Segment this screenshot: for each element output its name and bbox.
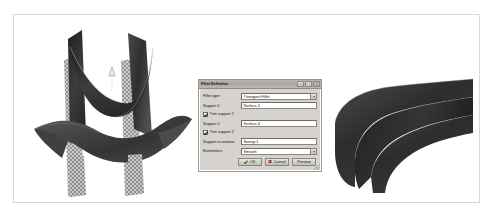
close-icon[interactable]: × <box>313 81 320 87</box>
cross-icon <box>268 160 272 164</box>
fillet-type-select[interactable]: Tritangent Fillet <box>241 93 317 100</box>
input-surfaces-preview <box>24 17 199 202</box>
dialog-titlebar[interactable]: Fillet Definition – □ × <box>199 80 321 89</box>
dialog-body: Fillet type: Tritangent Fillet Support 1… <box>199 89 321 168</box>
ok-button-label: OK <box>250 160 256 164</box>
maximize-icon[interactable]: □ <box>305 81 312 87</box>
support1-input[interactable]: Surface.2 <box>241 102 317 109</box>
fillet-type-value[interactable]: Tritangent Fillet <box>241 93 310 100</box>
support1-row: Support 1: Surface.2 <box>203 102 317 110</box>
support-to-remove-input[interactable]: Sweep.1 <box>241 138 317 145</box>
fillet-definition-dialog[interactable]: Fillet Definition – □ × Fillet type: Tri… <box>198 79 322 172</box>
extremities-label: Extremities: <box>203 147 241 155</box>
check-icon <box>245 160 249 164</box>
fillet-type-label: Fillet type: <box>203 92 241 100</box>
trim-support1-checkbox[interactable] <box>203 112 208 117</box>
trim-support2-checkbox[interactable] <box>203 130 208 135</box>
extremities-select[interactable]: Smooth <box>241 148 317 155</box>
support1-label: Support 1: <box>203 102 241 110</box>
chevron-down-icon[interactable] <box>310 148 317 155</box>
support2-row: Support 2: Surface.4 <box>203 120 317 128</box>
ok-button[interactable]: OK <box>238 158 262 166</box>
support2-input[interactable]: Surface.4 <box>241 120 317 127</box>
preview-button-label: Preview <box>297 160 311 164</box>
cancel-button-label: Cancel <box>274 160 286 164</box>
dialog-title: Fillet Definition <box>201 80 297 88</box>
window-controls: – □ × <box>297 81 320 87</box>
support-to-remove-label: Support to remove: <box>203 138 241 146</box>
tritangent-fillet-result <box>319 75 477 200</box>
dialog-button-row: OK Cancel Preview <box>203 158 317 166</box>
support2-label: Support 2: <box>203 120 241 128</box>
preview-button[interactable]: Preview <box>292 158 316 166</box>
trim-support1-label: Trim support 1 <box>210 111 234 118</box>
direction-arrow-icon <box>109 67 116 91</box>
figure-stage: Fillet Definition – □ × Fillet type: Tri… <box>14 15 479 202</box>
minimize-icon[interactable]: – <box>297 81 304 87</box>
trim-support2-row[interactable]: Trim support 2 <box>203 129 317 136</box>
cancel-button[interactable]: Cancel <box>265 158 289 166</box>
extremities-row: Extremities: Smooth <box>203 147 317 155</box>
support-to-remove-row: Support to remove: Sweep.1 <box>203 138 317 146</box>
fillet-type-row: Fillet type: Tritangent Fillet <box>203 92 317 100</box>
trim-support2-label: Trim support 2 <box>210 129 234 136</box>
figure-frame: Fillet Definition – □ × Fillet type: Tri… <box>13 14 480 203</box>
chevron-down-icon[interactable] <box>310 93 317 100</box>
resize-grip-icon[interactable] <box>314 164 320 170</box>
trim-support1-row[interactable]: Trim support 1 <box>203 111 317 118</box>
extremities-value[interactable]: Smooth <box>241 148 310 155</box>
